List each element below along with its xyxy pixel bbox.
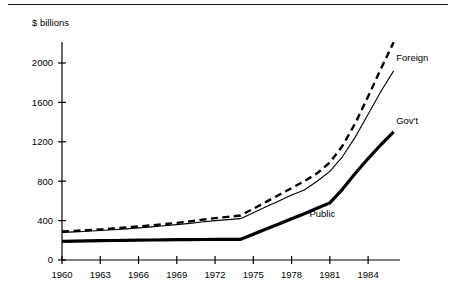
x-axis-tick-label: 1963 bbox=[90, 269, 111, 280]
y-axis-tick-label: 1600 bbox=[32, 97, 53, 108]
series-line-public bbox=[62, 132, 394, 241]
series-line-foreign bbox=[62, 42, 394, 231]
y-axis-tick-label: 1200 bbox=[32, 136, 53, 147]
y-axis-tick-label: 800 bbox=[37, 176, 53, 187]
series-label-public: Public bbox=[309, 208, 335, 219]
y-axis-tick-labels: 0400800120016002000 bbox=[32, 57, 53, 265]
x-axis-tick-label: 1969 bbox=[166, 269, 187, 280]
chart-page: $ billions 0400800120016002000 196019631… bbox=[0, 0, 456, 298]
x-axis-tick-label: 1975 bbox=[243, 269, 264, 280]
y-axis-tick-label: 2000 bbox=[32, 57, 53, 68]
y-axis-tick-label: 0 bbox=[48, 254, 53, 265]
chart-svg: $ billions 0400800120016002000 196019631… bbox=[0, 0, 456, 298]
x-axis-tick-label: 1966 bbox=[128, 269, 149, 280]
series-inline-labels: ForeignGov'tPublic bbox=[309, 52, 428, 219]
x-axis-tick-label: 1978 bbox=[281, 269, 302, 280]
series-label-foreign: Foreign bbox=[396, 52, 428, 63]
series-label-govt: Gov't bbox=[396, 115, 418, 126]
y-axis-tick-label: 400 bbox=[37, 215, 53, 226]
x-axis-tick-labels: 196019631966196919721975197819811984 bbox=[51, 269, 378, 280]
x-axis-tick-label: 1981 bbox=[319, 269, 340, 280]
y-axis-caption: $ billions bbox=[32, 17, 69, 28]
line-chart: $ billions 0400800120016002000 196019631… bbox=[0, 0, 456, 298]
x-axis-tick-label: 1984 bbox=[358, 269, 379, 280]
series-line-govt bbox=[62, 71, 394, 233]
series-lines bbox=[62, 42, 394, 241]
x-axis-tick-label: 1960 bbox=[51, 269, 72, 280]
x-axis-tick-label: 1972 bbox=[204, 269, 225, 280]
